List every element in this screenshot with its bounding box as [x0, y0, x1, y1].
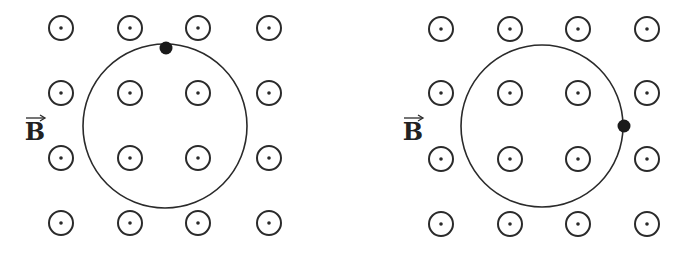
- field-out-of-page-icon: [566, 212, 590, 236]
- field-out-of-page-icon: [186, 16, 210, 40]
- field-out-of-page-icon: [635, 17, 659, 41]
- field-out-of-page-icon: [498, 212, 522, 236]
- field-out-of-page-icon: [49, 16, 73, 40]
- field-out-of-page-icon: [257, 16, 281, 40]
- field-out-of-page-icon: [257, 81, 281, 105]
- field-out-of-page-icon: [498, 17, 522, 41]
- field-out-of-page-icon: [118, 81, 142, 105]
- panel-right: B: [403, 17, 659, 236]
- field-out-of-page-icon: [635, 147, 659, 171]
- field-out-of-page-icon: [566, 147, 590, 171]
- field-out-of-page-icon: [186, 81, 210, 105]
- field-out-of-page-icon: [118, 211, 142, 235]
- field-out-of-page-icon: [49, 81, 73, 105]
- charged-particle: [160, 42, 173, 55]
- field-out-of-page-icon: [566, 17, 590, 41]
- field-label: B: [403, 115, 423, 146]
- field-label-text: B: [25, 117, 45, 146]
- field-out-of-page-icon: [49, 211, 73, 235]
- field-out-of-page-icon: [186, 211, 210, 235]
- field-out-of-page-icon: [49, 146, 73, 170]
- field-label: B: [25, 115, 45, 146]
- field-out-of-page-icon: [186, 146, 210, 170]
- field-out-of-page-icon: [635, 81, 659, 105]
- field-out-of-page-icon: [498, 81, 522, 105]
- field-out-of-page-icon: [429, 147, 453, 171]
- field-out-of-page-icon: [635, 212, 659, 236]
- field-out-of-page-icon: [566, 81, 590, 105]
- orbit-path: [461, 45, 623, 207]
- charged-particle: [618, 120, 631, 133]
- field-out-of-page-icon: [257, 146, 281, 170]
- panel-left: B: [25, 16, 281, 235]
- field-out-of-page-icon: [257, 211, 281, 235]
- field-out-of-page-icon: [118, 16, 142, 40]
- field-out-of-page-icon: [118, 146, 142, 170]
- field-label-text: B: [403, 117, 423, 146]
- field-out-of-page-icon: [498, 147, 522, 171]
- field-out-of-page-icon: [429, 212, 453, 236]
- magnetic-field-diagram: B B: [0, 0, 682, 257]
- orbit-path: [83, 44, 247, 208]
- field-out-of-page-icon: [429, 81, 453, 105]
- field-out-of-page-icon: [429, 17, 453, 41]
